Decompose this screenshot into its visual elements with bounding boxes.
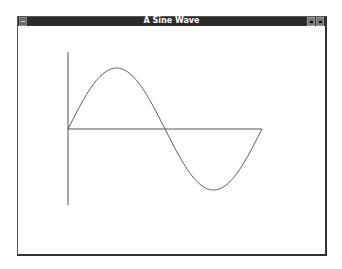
sine-wave-plot <box>0 0 342 269</box>
